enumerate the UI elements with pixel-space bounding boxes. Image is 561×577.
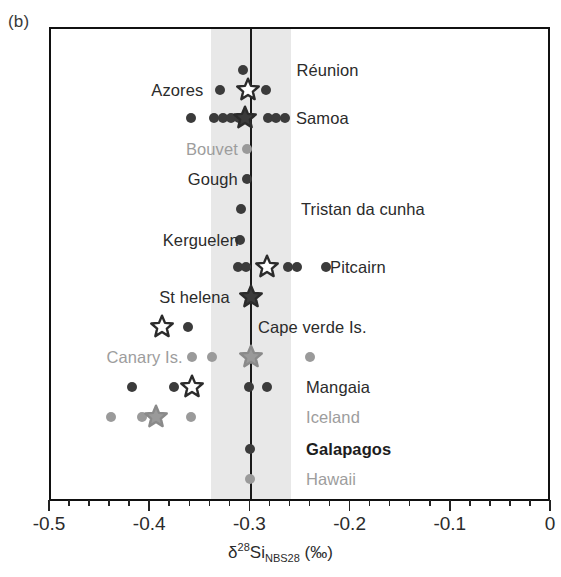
x-axis-major-tick — [449, 500, 451, 511]
mean-star-marker — [149, 315, 174, 340]
mean-star-marker — [238, 345, 263, 370]
x-axis-minor-tick — [509, 500, 511, 506]
locality-label: Kerguelen — [163, 231, 239, 250]
axis-title-standard: NBS28 — [265, 552, 300, 564]
x-axis-tick-label: -0.3 — [233, 513, 266, 535]
mean-star-marker — [232, 106, 257, 131]
data-point — [106, 412, 116, 422]
data-point — [169, 382, 179, 392]
mean-star-marker — [143, 405, 168, 430]
x-axis-major-tick — [549, 500, 551, 511]
data-point — [244, 382, 254, 392]
axis-title-units: (‰) — [305, 543, 333, 562]
mean-star-marker — [254, 255, 279, 280]
x-axis-minor-tick — [108, 500, 110, 506]
x-axis-major-tick — [148, 500, 150, 511]
x-axis-minor-tick — [409, 500, 411, 506]
x-axis-minor-tick — [529, 500, 531, 506]
data-point — [242, 174, 252, 184]
data-point — [186, 113, 196, 123]
panel-label: (b) — [8, 12, 29, 32]
x-axis-minor-tick — [309, 500, 311, 506]
locality-label: Mangaia — [306, 378, 370, 397]
x-axis-minor-tick — [269, 500, 271, 506]
mean-star-marker — [235, 78, 260, 103]
axis-title-element: Si — [250, 543, 265, 562]
x-axis-minor-tick — [489, 500, 491, 506]
data-point — [305, 352, 315, 362]
data-point — [127, 382, 137, 392]
data-point — [292, 262, 302, 272]
data-point — [262, 382, 272, 392]
x-axis-tick-label: -0.1 — [433, 513, 466, 535]
data-point — [186, 412, 196, 422]
x-axis-minor-tick — [68, 500, 70, 506]
x-axis-minor-tick — [289, 500, 291, 506]
x-axis-minor-tick — [229, 500, 231, 506]
data-point — [215, 85, 225, 95]
mean-star-marker — [179, 375, 204, 400]
data-point — [261, 85, 271, 95]
x-axis-minor-tick — [429, 500, 431, 506]
plot-frame: RéunionAzoresSamoaBouvetGoughTristan da … — [49, 27, 550, 501]
data-point — [242, 144, 252, 154]
x-axis-minor-tick — [189, 500, 191, 506]
locality-label: Hawaii — [306, 470, 356, 489]
data-point — [245, 444, 255, 454]
x-axis-minor-tick — [128, 500, 130, 506]
x-axis-minor-tick — [369, 500, 371, 506]
locality-label: Samoa — [296, 109, 349, 128]
data-point — [187, 352, 197, 362]
x-axis-tick-label: -0.4 — [133, 513, 166, 535]
locality-label: Réunion — [296, 61, 358, 80]
x-axis-minor-tick — [209, 500, 211, 506]
locality-label: Galapagos — [306, 440, 391, 459]
x-axis-minor-tick — [469, 500, 471, 506]
locality-label: Canary Is. — [107, 348, 183, 367]
locality-label: Cape verde Is. — [258, 318, 367, 337]
x-axis-tick-label: -0.5 — [33, 513, 66, 535]
x-axis-minor-tick — [329, 500, 331, 506]
locality-label: St helena — [159, 288, 230, 307]
x-axis-tick-label: 0 — [545, 513, 556, 535]
data-point — [238, 65, 248, 75]
data-point — [280, 113, 290, 123]
locality-label: Bouvet — [186, 140, 238, 159]
locality-label: Azores — [151, 81, 203, 100]
data-point — [241, 262, 251, 272]
x-axis-major-tick — [48, 500, 50, 511]
locality-label: Iceland — [306, 408, 360, 427]
x-axis-minor-tick — [168, 500, 170, 506]
data-point — [183, 322, 193, 332]
axis-title-mass: 28 — [238, 541, 250, 553]
x-axis-major-tick — [349, 500, 351, 511]
data-point — [245, 474, 255, 484]
axis-title-delta: δ — [228, 543, 237, 562]
locality-label: Pitcairn — [330, 258, 386, 277]
x-axis-minor-tick — [88, 500, 90, 506]
x-axis-minor-tick — [389, 500, 391, 506]
data-point — [236, 204, 246, 214]
mean-star-marker — [238, 285, 263, 310]
x-axis-major-tick — [249, 500, 251, 511]
x-axis-tick-label: -0.2 — [333, 513, 366, 535]
locality-label: Tristan da cunha — [301, 200, 425, 219]
data-point — [207, 352, 217, 362]
x-axis-title: δ28SiNBS28 (‰) — [0, 541, 561, 564]
locality-label: Gough — [188, 170, 238, 189]
